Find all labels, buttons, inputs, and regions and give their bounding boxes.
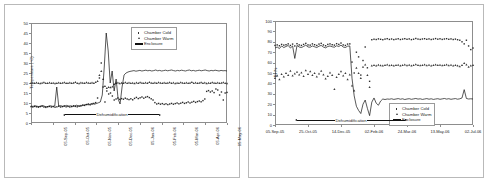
series-point-chamber-cold (448, 39, 449, 40)
series-point-chamber-cold (470, 49, 471, 50)
series-point-chamber-cold (200, 101, 201, 102)
series-point-chamber-warm (220, 82, 222, 84)
series-point-chamber-warm (148, 81, 150, 83)
series-point-chamber-warm (325, 78, 327, 80)
series-point-chamber-cold (279, 45, 280, 46)
series-point-chamber-warm (91, 82, 93, 84)
series-point-chamber-cold (130, 98, 131, 99)
series-point-chamber-warm (193, 82, 195, 84)
series-point-chamber-cold (334, 44, 335, 45)
legend-label: Chamber Warm (401, 112, 431, 117)
series-point-chamber-warm (468, 66, 470, 68)
series-point-chamber-cold (108, 93, 109, 94)
series-point-chamber-cold (147, 96, 148, 97)
series-point-chamber-warm (320, 70, 322, 72)
series-point-chamber-warm (217, 82, 219, 84)
series-point-chamber-cold (312, 43, 313, 44)
series-point-chamber-warm (39, 82, 41, 84)
series-point-chamber-warm (465, 64, 467, 66)
series-point-chamber-warm (76, 82, 78, 84)
series-point-chamber-cold (290, 45, 291, 46)
temperature-figure: Temperature (°C) 05101520253035404550 05… (4, 4, 240, 178)
series-point-chamber-warm (397, 64, 399, 66)
series-point-chamber-cold (398, 38, 399, 39)
series-point-chamber-cold (69, 106, 70, 107)
series-point-chamber-cold (204, 98, 205, 99)
series-point-chamber-cold (446, 38, 447, 39)
series-point-chamber-cold (387, 38, 388, 39)
series-point-chamber-cold (208, 90, 209, 91)
series-point-chamber-cold (340, 42, 341, 43)
series-point-chamber-warm (182, 82, 184, 84)
series-point-chamber-warm (333, 88, 335, 90)
series-point-chamber-warm (133, 82, 135, 84)
series-point-chamber-cold (343, 44, 344, 45)
series-point-chamber-warm (222, 81, 224, 83)
series-point-chamber-cold (138, 98, 139, 99)
series-point-chamber-warm (318, 72, 320, 74)
series-point-chamber-warm (172, 82, 174, 84)
series-point-chamber-cold (325, 45, 326, 46)
series-point-chamber-warm (135, 82, 137, 84)
series-point-chamber-cold (51, 106, 52, 107)
series-point-chamber-cold (453, 39, 454, 40)
series-point-chamber-warm (224, 82, 226, 84)
series-point-chamber-warm (278, 78, 280, 80)
series-point-chamber-cold (206, 91, 207, 92)
series-point-chamber-warm (183, 82, 185, 84)
series-point-chamber-warm (340, 70, 342, 72)
series-point-chamber-cold (156, 103, 157, 104)
series-point-chamber-warm (52, 82, 54, 84)
series-point-chamber-cold (406, 39, 407, 40)
series-point-chamber-warm (109, 86, 111, 88)
series-point-chamber-warm (364, 64, 366, 66)
series-point-chamber-warm (50, 82, 52, 84)
series-point-chamber-warm (87, 82, 89, 84)
series-point-chamber-cold (367, 67, 368, 68)
series-point-chamber-warm (206, 82, 208, 84)
series-point-chamber-cold (97, 97, 98, 98)
series-point-chamber-warm (388, 64, 390, 66)
series-point-chamber-warm (338, 73, 340, 75)
series-point-chamber-warm (139, 81, 141, 83)
series-point-chamber-cold (365, 46, 366, 47)
series-point-chamber-warm (146, 82, 148, 84)
series-point-chamber-warm (178, 82, 180, 84)
series-point-chamber-warm (78, 82, 80, 84)
series-point-chamber-warm (170, 82, 172, 84)
series-point-chamber-warm (132, 82, 134, 84)
series-point-chamber-cold (347, 43, 348, 44)
series-point-chamber-cold (202, 100, 203, 101)
series-point-chamber-warm (276, 75, 278, 77)
series-point-chamber-warm (196, 82, 198, 84)
series-point-chamber-cold (378, 38, 379, 39)
series-point-chamber-warm (169, 81, 171, 83)
series-point-chamber-cold (318, 43, 319, 44)
dehumidification-annotation: Dehumidification (63, 112, 161, 117)
series-point-chamber-cold (345, 45, 346, 46)
series-point-chamber-warm (59, 82, 61, 84)
square-marker-icon (392, 108, 401, 110)
series-point-chamber-warm (281, 73, 283, 75)
series-point-chamber-cold (152, 99, 153, 100)
series-point-chamber-cold (409, 38, 410, 39)
series-point-chamber-warm (37, 82, 39, 84)
series-point-chamber-cold (424, 38, 425, 39)
series-point-chamber-warm (395, 64, 397, 66)
series-point-chamber-warm (96, 80, 98, 82)
series-point-chamber-cold (428, 38, 429, 39)
series-point-chamber-warm (137, 82, 139, 84)
series-point-chamber-warm (159, 82, 161, 84)
series-point-chamber-cold (283, 44, 284, 45)
series-point-chamber-warm (150, 82, 152, 84)
series-point-chamber-cold (444, 38, 445, 39)
series-point-chamber-cold (77, 106, 78, 107)
series-point-chamber-warm (161, 82, 163, 84)
series-point-chamber-warm (415, 63, 417, 65)
series-point-chamber-cold (186, 102, 187, 103)
arrow-shaft (128, 114, 159, 115)
series-point-chamber-cold (191, 102, 192, 103)
series-point-chamber-warm (200, 81, 202, 83)
arrow-head-right-icon (405, 119, 407, 121)
series-point-chamber-warm (375, 64, 377, 66)
